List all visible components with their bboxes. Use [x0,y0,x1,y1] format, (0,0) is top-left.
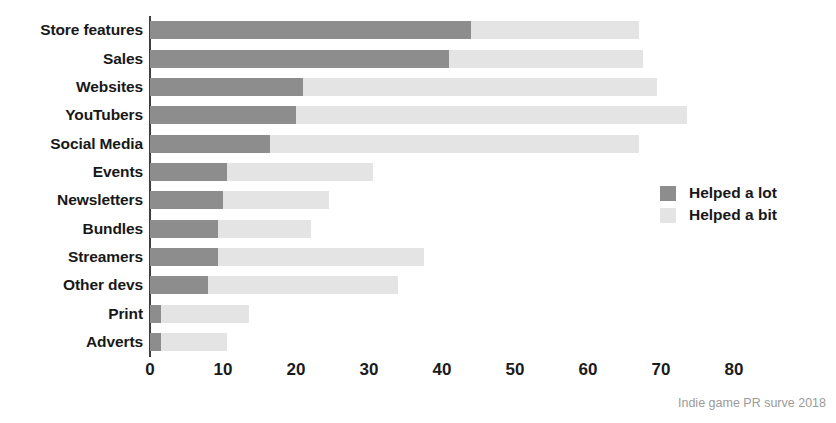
axis-tick-label: 30 [360,360,379,380]
axis-tick-label: 50 [506,360,525,380]
chart-legend: Helped a lotHelped a bit [660,183,830,227]
category-label: Other devs [0,276,143,294]
value-axis-ticks: 01020304050607080 [150,360,750,386]
bar-segment [303,78,657,96]
legend-swatch-icon [660,208,676,223]
bar-segment [296,106,687,124]
bar-segment [150,106,296,124]
category-label: Store features [0,21,143,39]
bar-segment [208,276,398,294]
category-label: Streamers [0,248,143,266]
axis-tick-label: 60 [579,360,598,380]
bar-segment [150,333,161,351]
category-label: Social Media [0,135,143,153]
axis-tick-label: 70 [652,360,671,380]
category-label: Sales [0,50,143,68]
bar-segment [218,220,311,238]
bar-segment [150,50,449,68]
axis-tick-label: 80 [725,360,744,380]
bar-segment [150,21,471,39]
bar-segment [471,21,639,39]
bar-row [150,78,734,96]
bar-row [150,220,734,238]
legend-item[interactable]: Helped a bit [660,205,830,225]
bar-segment [150,305,161,323]
bar-segment [270,135,639,153]
bar-segment [150,78,303,96]
bar-segment [150,276,208,294]
bar-segment [150,220,218,238]
axis-tick-label: 0 [145,360,154,380]
bar-row [150,248,734,266]
bar-segment [150,248,218,266]
bar-row [150,135,734,153]
bar-row [150,191,734,209]
axis-tick-label: 40 [433,360,452,380]
bar-segment [218,248,424,266]
plot-area [150,16,734,356]
bar-row [150,163,734,181]
bar-segment [227,163,373,181]
category-label: Print [0,305,143,323]
category-axis-labels: Store featuresSalesWebsitesYouTubersSoci… [0,16,143,356]
bar-row [150,333,734,351]
bar-row [150,276,734,294]
bar-segment [161,305,249,323]
bar-segment [150,191,223,209]
bar-row [150,305,734,323]
axis-tick-label: 20 [287,360,306,380]
legend-swatch-icon [660,186,676,201]
legend-label: Helped a bit [689,206,777,224]
chart-caption: Indie game PR surve 2018 [678,396,826,410]
category-label: Events [0,163,143,181]
category-label: Adverts [0,333,143,351]
bar-row [150,106,734,124]
bar-segment [150,135,270,153]
bar-segment [449,50,642,68]
category-label: YouTubers [0,106,143,124]
bar-segment [223,191,329,209]
category-label: Newsletters [0,191,143,209]
bar-row [150,50,734,68]
bar-segment [161,333,227,351]
legend-label: Helped a lot [689,184,777,202]
bar-row [150,21,734,39]
legend-item[interactable]: Helped a lot [660,183,830,203]
bar-segment [150,163,227,181]
category-label: Bundles [0,220,143,238]
bar-chart: Store featuresSalesWebsitesYouTubersSoci… [0,0,836,423]
axis-tick-label: 10 [214,360,233,380]
category-label: Websites [0,78,143,96]
